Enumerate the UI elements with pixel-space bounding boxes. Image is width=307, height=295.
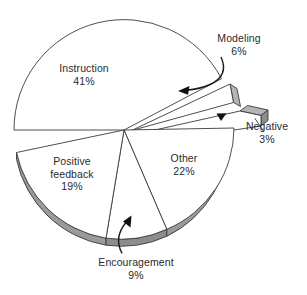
slice-label-instruction: Instruction 41% [38, 62, 130, 87]
slice-label-negative: Negative 3% [228, 120, 306, 145]
slice-label-modeling-name: Modeling [217, 32, 260, 44]
slice-label-encouragement: Encouragement 9% [74, 256, 198, 281]
slice-label-negative-name: Negative [246, 120, 288, 132]
slice-label-instruction-percent: 41% [38, 75, 130, 88]
slice-label-negative-percent: 3% [228, 133, 306, 146]
slice-label-other-name: Other [171, 152, 198, 164]
slice-label-encouragement-percent: 9% [74, 269, 198, 282]
pie-chart-figure: Instruction 41% Positive feedback 19% Ot… [0, 0, 307, 295]
slice-label-positive-feedback-line1: Positive [53, 155, 91, 167]
slice-label-positive-feedback-percent: 19% [26, 180, 118, 193]
slice-label-modeling-percent: 6% [198, 45, 280, 58]
slice-label-encouragement-name: Encouragement [98, 256, 173, 268]
slice-label-other-percent: 22% [148, 165, 220, 178]
slice-label-other: Other 22% [148, 152, 220, 177]
slice-label-positive-feedback-line2: feedback [26, 168, 118, 181]
slice-label-modeling: Modeling 6% [198, 32, 280, 57]
slice-label-instruction-name: Instruction [59, 62, 109, 74]
slice-label-positive-feedback: Positive feedback 19% [26, 155, 118, 193]
